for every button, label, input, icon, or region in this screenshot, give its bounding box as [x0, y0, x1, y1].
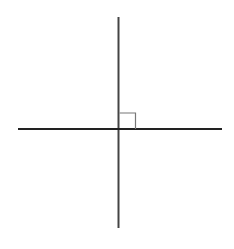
right-angle-marker-icon	[120, 113, 136, 129]
diagram-canvas	[0, 0, 234, 249]
perpendicular-lines-diagram	[0, 0, 234, 249]
